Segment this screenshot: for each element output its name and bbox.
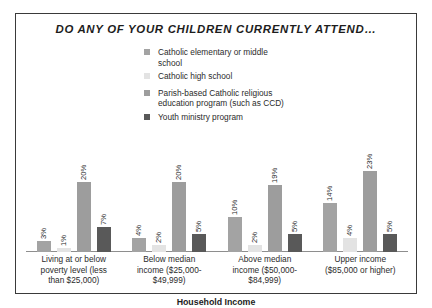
bar-value-label: 4%: [134, 225, 143, 236]
bar-value-label: 4%: [345, 225, 354, 236]
bar-rect: [57, 248, 71, 252]
bar[interactable]: 4%: [132, 238, 146, 252]
bar-value-label: 19%: [270, 168, 279, 183]
bar-group: 4%2%20%5%: [122, 164, 218, 252]
chart-legend: Catholic elementary or middleschoolCatho…: [144, 47, 359, 126]
legend-item-label: Youth ministry program: [158, 112, 243, 122]
bar-rect: [172, 182, 186, 252]
bar-rect: [288, 234, 302, 252]
bar[interactable]: 5%: [383, 234, 397, 252]
bar[interactable]: 20%: [77, 182, 91, 252]
legend-item[interactable]: Youth ministry program: [144, 112, 359, 123]
bar[interactable]: 5%: [192, 234, 206, 252]
bar-rect: [363, 171, 377, 252]
bar-value-label: 14%: [325, 186, 334, 201]
legend-item-label: Parish-based Catholic religiouseducation…: [158, 88, 284, 109]
bar-rect: [192, 234, 206, 252]
bar-value-label: 5%: [290, 221, 299, 232]
bar-value-label: 3%: [39, 228, 48, 239]
bar-rect: [248, 245, 262, 252]
category-label: Below medianincome ($25,000-$49,999): [122, 254, 218, 286]
bar-group: 14%4%23%5%: [313, 164, 409, 252]
bar-value-label: 5%: [194, 221, 203, 232]
bar[interactable]: 5%: [288, 234, 302, 252]
bar-rect: [132, 238, 146, 252]
x-axis-title: Household Income: [16, 297, 416, 307]
bar[interactable]: 1%: [57, 248, 71, 252]
bar-value-label: 23%: [365, 154, 374, 169]
bar-rect: [343, 238, 357, 252]
legend-item-label: Catholic high school: [158, 71, 232, 81]
chart-title: DO ANY OF YOUR CHILDREN CURRENTLY ATTEND…: [16, 23, 416, 35]
bar-group: 10%2%19%5%: [217, 164, 313, 252]
bar-group: 3%1%20%7%: [26, 164, 122, 252]
chart-frame: DO ANY OF YOUR CHILDREN CURRENTLY ATTEND…: [15, 13, 417, 294]
bar[interactable]: 7%: [97, 227, 111, 252]
bar-rect: [152, 245, 166, 252]
legend-swatch-icon: [144, 90, 150, 96]
bar[interactable]: 19%: [268, 185, 282, 252]
bar[interactable]: 23%: [363, 171, 377, 252]
bar[interactable]: 3%: [37, 241, 51, 252]
bar-rect: [77, 182, 91, 252]
bar-value-label: 2%: [250, 232, 259, 243]
legend-item[interactable]: Catholic high school: [144, 71, 359, 82]
bar[interactable]: 2%: [152, 245, 166, 252]
legend-swatch-icon: [144, 114, 150, 120]
bar[interactable]: 10%: [228, 217, 242, 252]
legend-swatch-icon: [144, 49, 150, 55]
category-axis-labels: Living at or belowpoverty level (lesstha…: [26, 254, 408, 296]
bar-value-label: 20%: [79, 164, 88, 179]
category-label: Above medianincome ($50,000-$84,999): [217, 254, 313, 286]
legend-item[interactable]: Catholic elementary or middleschool: [144, 47, 359, 68]
bar-value-label: 10%: [230, 200, 239, 215]
legend-item-label: Catholic elementary or middleschool: [158, 47, 268, 68]
bar-value-label: 2%: [154, 232, 163, 243]
category-label: Living at or belowpoverty level (lesstha…: [26, 254, 122, 286]
category-label: Upper income($85,000 or higher): [313, 254, 409, 275]
bar[interactable]: 2%: [248, 245, 262, 252]
legend-item[interactable]: Parish-based Catholic religiouseducation…: [144, 88, 359, 109]
plot-area: 3%1%20%7%4%2%20%5%10%2%19%5%14%4%23%5%: [26, 164, 408, 252]
bar-value-label: 7%: [99, 214, 108, 225]
bar-rect: [37, 241, 51, 252]
bar[interactable]: 4%: [343, 238, 357, 252]
bar[interactable]: 14%: [323, 203, 337, 252]
legend-swatch-icon: [144, 73, 150, 79]
bar-value-label: 20%: [174, 164, 183, 179]
bar-value-label: 1%: [59, 236, 68, 247]
bar-rect: [228, 217, 242, 252]
bar-rect: [323, 203, 337, 252]
bar[interactable]: 20%: [172, 182, 186, 252]
bar-rect: [383, 234, 397, 252]
bar-rect: [97, 227, 111, 252]
bar-rect: [268, 185, 282, 252]
bar-value-label: 5%: [385, 221, 394, 232]
